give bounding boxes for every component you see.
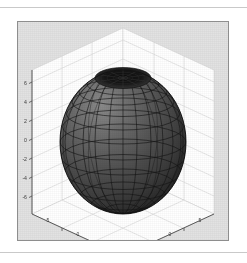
z-tick-label: 0 xyxy=(24,137,27,143)
bottom-divider-rule xyxy=(0,252,247,253)
z-tick-label: 2 xyxy=(24,118,27,124)
z-tick-label: -2 xyxy=(22,156,27,162)
screenshot-page: 6 4 2 0 -2 -4 -6 5 0 -5 -5 0 xyxy=(0,0,247,263)
z-tick-labels: 6 4 2 0 -2 -4 -6 xyxy=(22,80,27,200)
top-divider-rule xyxy=(0,7,247,8)
z-tick-label: 6 xyxy=(24,80,27,86)
z-tick-label: -6 xyxy=(22,194,27,200)
sphere-pole-cap xyxy=(95,68,151,89)
x-tick-label: 0 xyxy=(169,231,172,237)
y-tick-label: 5 xyxy=(47,217,50,223)
y-tick-label: 0 xyxy=(77,231,80,237)
z-tick-label: -4 xyxy=(22,175,27,181)
z-tick-label: 4 xyxy=(24,99,27,105)
z-axis-ticks xyxy=(29,82,32,198)
figure-panel: 6 4 2 0 -2 -4 -6 5 0 -5 -5 0 xyxy=(17,21,229,241)
x-tick-label: 5 xyxy=(199,217,202,223)
surface-plot-svg: 6 4 2 0 -2 -4 -6 5 0 -5 -5 0 xyxy=(18,22,228,240)
axes-3d: 6 4 2 0 -2 -4 -6 5 0 -5 -5 0 xyxy=(18,22,228,240)
